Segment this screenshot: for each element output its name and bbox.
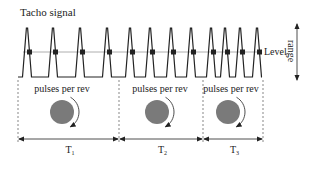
level-crossing-marker: [27, 50, 32, 55]
level-crossing-marker: [130, 50, 135, 55]
level-crossing-marker: [257, 50, 262, 55]
pulses-per-rev-caption: pulses per rev: [132, 83, 188, 94]
rotating-disk-icon: [50, 100, 74, 124]
pulses-per-rev-caption: pulses per rev: [203, 83, 259, 94]
range-label: range: [286, 40, 297, 63]
level-crossing-marker: [211, 50, 216, 55]
revolution-segment: pulses per revT2: [120, 83, 202, 156]
level-crossing-marker: [80, 50, 85, 55]
diagram-title: Tacho signal: [20, 6, 76, 18]
rotating-disk-icon: [145, 100, 169, 124]
level-label: Level: [264, 46, 287, 57]
period-label: T2: [158, 144, 167, 156]
level-crossing-marker: [191, 50, 196, 55]
level-crossing-marker: [107, 50, 112, 55]
tacho-diagram: Tacho signal Level range pulses per revT…: [0, 0, 313, 169]
tacho-diagram-canvas: Tacho signal Level range pulses per revT…: [0, 0, 313, 169]
level-crossing-marker: [225, 50, 230, 55]
period-label: T1: [66, 144, 75, 156]
level-crossing-marker: [171, 50, 176, 55]
revolution-segments: pulses per revT1pulses per revT2pulses p…: [18, 80, 263, 156]
rotating-disk-icon: [216, 100, 240, 124]
period-label: T3: [230, 144, 239, 156]
level-crossing-marker: [53, 50, 58, 55]
pulses-per-rev-caption: pulses per rev: [34, 83, 90, 94]
revolution-segment: pulses per revT3: [203, 83, 262, 156]
revolution-segment: pulses per revT1: [19, 83, 118, 156]
level-crossing-marker: [240, 50, 245, 55]
level-crossing-marker: [150, 50, 155, 55]
